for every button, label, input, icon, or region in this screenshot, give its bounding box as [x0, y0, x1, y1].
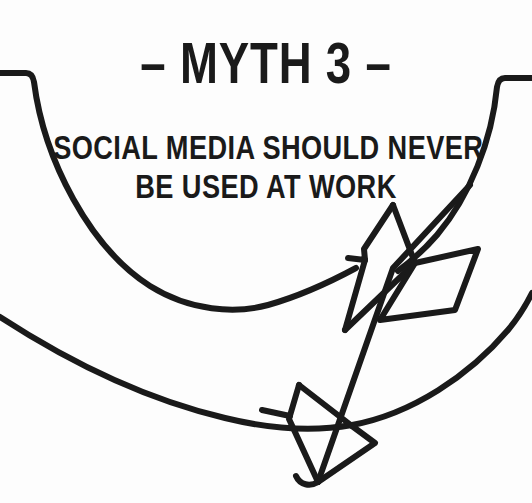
myth-3-illustration-canvas: – MYTH 3 – SOCIAL MEDIA SHOULD NEVER BE … — [0, 0, 532, 503]
illustration-artwork — [0, 0, 532, 503]
